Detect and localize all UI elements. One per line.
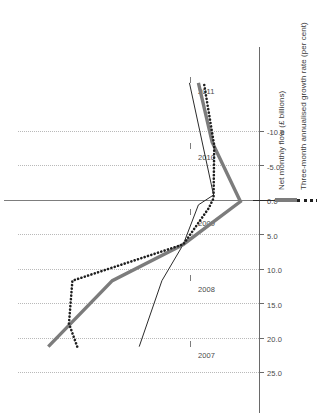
series-layer	[18, 73, 259, 373]
chart-canvas: 25.020.015.010.05.00.0-5.0-10.0200720082…	[0, 0, 317, 413]
thick-solid-line-icon	[275, 196, 297, 206]
legend-item-twelve-month[interactable]: Twelve month growth rate (per cent)	[295, 0, 317, 150]
thin-solid-line-icon	[253, 196, 275, 206]
dotted-line-icon	[297, 196, 317, 206]
series-line	[69, 83, 214, 347]
series-line	[139, 83, 213, 347]
plot-area: 25.020.015.010.05.00.0-5.0-10.0200720082…	[18, 73, 259, 373]
chart-legend: Net monthly flow (£ billions) Three-mont…	[251, 0, 315, 413]
